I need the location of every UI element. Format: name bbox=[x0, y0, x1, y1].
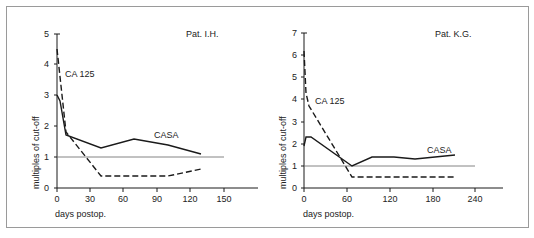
y-tick-label: 5 bbox=[292, 72, 297, 82]
series-label-casa-right: CASA bbox=[427, 145, 452, 155]
series-ca125-right bbox=[304, 51, 455, 177]
figure-canvas: 0 1 2 3 4 5 0 30 60 90 120 150 days post… bbox=[0, 0, 534, 238]
x-axis-label-left: days postop. bbox=[55, 209, 106, 219]
y-tick-label: 2 bbox=[292, 139, 297, 149]
x-tick-label: 60 bbox=[342, 194, 352, 204]
x-tick-label: 240 bbox=[467, 194, 482, 204]
x-tick-label: 150 bbox=[216, 194, 231, 204]
chart-right: 0 1 2 3 4 5 6 7 0 60 120 180 240 days po… bbox=[278, 28, 503, 219]
y-tick-label: 3 bbox=[44, 90, 49, 100]
x-ticks-right bbox=[304, 188, 475, 192]
y-axis-label-left: multiples of cut-off bbox=[31, 116, 41, 189]
y-axis-label-right: multiples of cut-off bbox=[278, 116, 288, 189]
x-axis-label-right: days postop. bbox=[303, 209, 354, 219]
y-tick-label: 3 bbox=[292, 117, 297, 127]
x-tick-label: 30 bbox=[85, 194, 95, 204]
panel-title-left: Pat. I.H. bbox=[186, 29, 219, 39]
series-label-ca125-left: CA 125 bbox=[65, 69, 95, 79]
chart-left: 0 1 2 3 4 5 0 30 60 90 120 150 days post… bbox=[31, 29, 258, 219]
y-tick-label: 5 bbox=[44, 29, 49, 39]
x-ticks-left bbox=[57, 188, 224, 192]
x-tick-label: 0 bbox=[54, 194, 59, 204]
y-tick-label: 6 bbox=[292, 50, 297, 60]
x-tick-label: 90 bbox=[152, 194, 162, 204]
y-tick-label: 7 bbox=[292, 28, 297, 38]
y-tick-label: 1 bbox=[44, 152, 49, 162]
series-label-ca125-right: CA 125 bbox=[315, 96, 345, 106]
panel-title-right: Pat. K.G. bbox=[435, 29, 472, 39]
x-tick-label: 60 bbox=[118, 194, 128, 204]
y-tick-label: 0 bbox=[292, 183, 297, 193]
x-tick-label: 120 bbox=[382, 194, 397, 204]
x-tick-label: 120 bbox=[182, 194, 197, 204]
series-casa-left bbox=[57, 95, 201, 154]
y-tick-label: 2 bbox=[44, 121, 49, 131]
y-tick-label: 0 bbox=[44, 183, 49, 193]
y-tick-label: 4 bbox=[44, 59, 49, 69]
x-tick-label: 180 bbox=[425, 194, 440, 204]
y-tick-label: 4 bbox=[292, 94, 297, 104]
y-tick-label: 1 bbox=[292, 161, 297, 171]
x-tick-label: 0 bbox=[301, 194, 306, 204]
series-label-casa-left: CASA bbox=[154, 130, 179, 140]
